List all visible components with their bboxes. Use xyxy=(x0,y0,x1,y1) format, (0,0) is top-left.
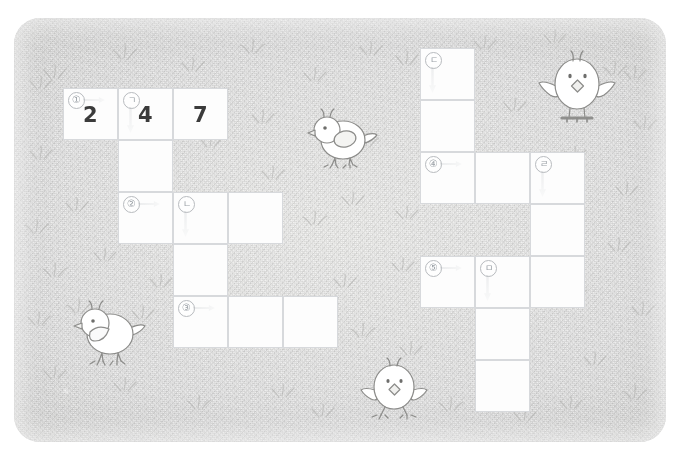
puzzle-cell[interactable]: ㅁ xyxy=(475,256,530,308)
puzzle-scene: ① 2 ㄱ 4 7 ② ㄴ ③ ㄷ ④ ㄹ xyxy=(0,0,680,460)
puzzle-cell[interactable] xyxy=(173,244,228,296)
puzzle-cell[interactable]: ㄹ xyxy=(530,152,585,204)
puzzle-cell[interactable] xyxy=(475,152,530,204)
clue-marker-2: ② xyxy=(123,196,140,213)
clue-marker-rieul: ㄹ xyxy=(535,156,552,173)
across-arrow-icon xyxy=(440,161,462,167)
puzzle-cell[interactable]: ② xyxy=(118,192,173,244)
clue-marker-mieum: ㅁ xyxy=(480,260,497,277)
cell-value: 4 xyxy=(119,103,172,127)
across-arrow-icon xyxy=(193,305,215,311)
down-arrow-icon xyxy=(182,211,189,237)
down-arrow-icon xyxy=(539,171,546,197)
puzzle-cell[interactable]: ㄴ xyxy=(173,192,228,244)
puzzle-cell[interactable] xyxy=(475,360,530,412)
puzzle-cell[interactable]: ① 2 xyxy=(63,88,118,140)
puzzle-cell[interactable]: ㄱ 4 xyxy=(118,88,173,140)
across-arrow-icon xyxy=(138,201,160,207)
clue-marker-digeut: ㄷ xyxy=(425,52,442,69)
down-arrow-icon xyxy=(484,275,491,301)
down-arrow-icon xyxy=(429,67,436,93)
puzzle-cell xyxy=(173,140,228,192)
puzzle-cell[interactable] xyxy=(530,256,585,308)
across-arrow-icon xyxy=(83,97,105,103)
puzzle-cell[interactable]: ㄷ xyxy=(420,48,475,100)
cell-value: 2 xyxy=(64,103,117,127)
clue-marker-3: ③ xyxy=(178,300,195,317)
puzzle-cell[interactable] xyxy=(475,308,530,360)
puzzle-cell[interactable] xyxy=(530,204,585,256)
puzzle-cell[interactable] xyxy=(420,100,475,152)
across-arrow-icon xyxy=(440,265,462,271)
puzzle-cell[interactable]: ④ xyxy=(420,152,475,204)
clue-marker-5: ⑤ xyxy=(425,260,442,277)
puzzle-cell[interactable] xyxy=(228,296,283,348)
puzzle-cell[interactable]: 7 xyxy=(173,88,228,140)
clue-marker-4: ④ xyxy=(425,156,442,173)
puzzle-cell[interactable] xyxy=(118,140,173,192)
puzzle-cell[interactable]: ⑤ xyxy=(420,256,475,308)
puzzle-cell[interactable] xyxy=(283,296,338,348)
puzzle-cell[interactable]: ③ xyxy=(173,296,228,348)
clue-marker-nieun: ㄴ xyxy=(178,196,195,213)
puzzle-cell[interactable] xyxy=(228,192,283,244)
cell-value: 7 xyxy=(174,103,227,127)
